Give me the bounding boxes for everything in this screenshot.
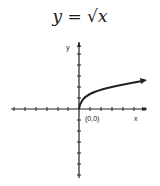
curve-arrow-icon <box>140 78 147 84</box>
y-axis-arrow-icon <box>77 42 81 47</box>
sqrt-curve <box>79 81 142 109</box>
y-axis-label: y <box>66 44 70 52</box>
plot-area: y x (0,0) <box>0 0 160 186</box>
origin-label: (0,0) <box>85 115 99 123</box>
x-axis-label: x <box>134 115 138 122</box>
